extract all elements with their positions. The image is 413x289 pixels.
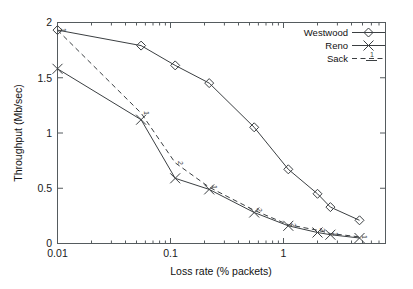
westwood-line bbox=[58, 30, 360, 220]
reno-line bbox=[58, 69, 360, 238]
y-tick-label-2: 1 bbox=[46, 127, 52, 139]
y-tick-label-1: 0.5 bbox=[37, 182, 52, 194]
y-axis-title: Throughput (Mb/sec) bbox=[12, 84, 24, 181]
sack-marker-icon: 1 bbox=[370, 51, 374, 58]
sack-marker-label: 2 bbox=[290, 223, 297, 227]
series-sack: 1 1 2 1 2 2 2 1 1 bbox=[58, 28, 369, 239]
y-tick-label-3: 1.5 bbox=[37, 72, 52, 84]
sack-marker-label: 2 bbox=[256, 208, 263, 212]
y-tick-label-0: 0 bbox=[46, 237, 52, 249]
westwood-markers bbox=[53, 26, 364, 225]
sack-marker-label: 1 bbox=[60, 28, 67, 32]
sack-marker-label: 1 bbox=[361, 235, 368, 239]
x-tick-label-2: 1 bbox=[281, 247, 287, 259]
x-axis-title: Loss rate (% packets) bbox=[170, 265, 272, 277]
sack-marker-label: 2 bbox=[177, 161, 184, 165]
sack-marker-label: 1 bbox=[211, 185, 218, 189]
chart-svg: 0.01 0.1 1 0 0.5 1 1.5 2 Loss rate (% pa… bbox=[0, 0, 413, 289]
x-tick-label-1: 0.1 bbox=[163, 247, 178, 259]
sack-marker-label: 1 bbox=[143, 111, 150, 115]
series-reno bbox=[53, 64, 365, 243]
chart-figure: 0.01 0.1 1 0 0.5 1 1.5 2 Loss rate (% pa… bbox=[0, 0, 413, 289]
legend-label-sack: Sack bbox=[327, 53, 348, 64]
sack-marker-label: 1 bbox=[332, 232, 339, 236]
sack-markers: 1 1 2 1 2 2 2 1 1 bbox=[60, 28, 368, 239]
series-westwood bbox=[53, 26, 364, 225]
legend: Westwood Reno Sack 1 bbox=[304, 27, 385, 64]
y-tick-label-4: 2 bbox=[46, 16, 52, 28]
sack-marker-label: 2 bbox=[319, 228, 326, 232]
reno-markers bbox=[53, 64, 365, 243]
sack-line bbox=[58, 30, 360, 237]
legend-label-reno: Reno bbox=[325, 40, 348, 51]
legend-label-westwood: Westwood bbox=[304, 27, 348, 38]
